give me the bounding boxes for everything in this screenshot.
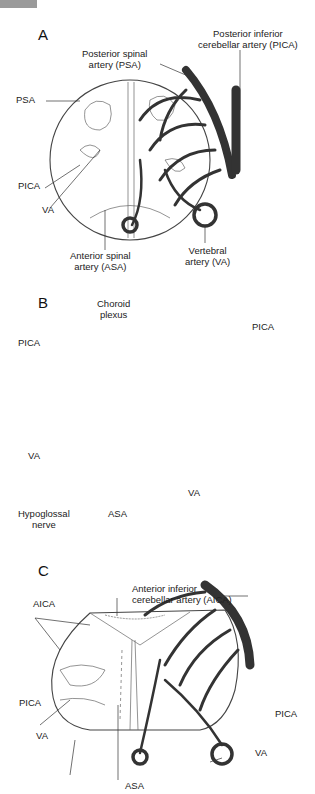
label-va-right: VA <box>255 747 267 758</box>
panel-label-b: B <box>38 294 48 311</box>
label-aica-top: Anterior inferior cerebellar artery (AIC… <box>132 583 232 605</box>
panel-c: C Anterior inferior cerebellar artery (A… <box>0 540 315 794</box>
label-va-left: VA <box>36 730 48 741</box>
panel-label-c: C <box>38 562 49 579</box>
label-asa: ASA <box>125 780 144 791</box>
label-asa: ASA <box>108 508 127 519</box>
label-choroid-plexus: Choroid plexus <box>97 298 130 320</box>
medulla-section-a <box>0 0 315 270</box>
label-va-left: VA <box>28 450 40 461</box>
label-pica-right: PICA <box>275 708 297 719</box>
label-va-right: VA <box>188 487 200 498</box>
label-aica-left: AICA <box>33 598 55 609</box>
label-hypoglossal: Hypoglossal nerve <box>18 508 70 530</box>
panel-a: A Posterior inferior cerebellar artery (… <box>0 0 315 270</box>
label-pica-right: PICA <box>252 321 274 332</box>
label-pica-left: PICA <box>18 337 40 348</box>
panel-b: B Choroid plexus PICA PICA VA VA ASA Hyp… <box>0 270 315 530</box>
label-pica-left: PICA <box>19 697 41 708</box>
